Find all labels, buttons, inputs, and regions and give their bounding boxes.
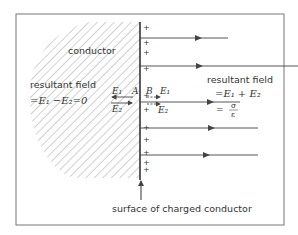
- svg-text:+: +: [143, 48, 150, 57]
- left-resultant-field-equation: =E₁ −E₂=0: [30, 95, 88, 106]
- point-b-label: B: [145, 86, 153, 96]
- vector-e1-right-label: E₁: [159, 86, 170, 96]
- right-resultant-field-equation: =E₁ + E₂: [215, 88, 261, 99]
- svg-text:+: +: [143, 123, 150, 132]
- sigma-numerator: σ: [231, 101, 236, 110]
- vector-e1-left-label: E₁: [111, 86, 122, 96]
- svg-text:+: +: [143, 38, 150, 47]
- svg-text:+: +: [143, 165, 150, 174]
- svg-text:+: +: [143, 23, 150, 32]
- sigma-eq-sign: =: [216, 105, 224, 115]
- left-resultant-field-label: resultant field: [30, 79, 96, 90]
- svg-text:+: +: [143, 135, 150, 144]
- svg-text:+: +: [143, 148, 150, 157]
- point-a-label: A: [131, 86, 139, 96]
- svg-text:+: +: [143, 64, 150, 73]
- surface-caption: surface of charged conductor: [112, 203, 252, 214]
- right-resultant-field-label: resultant field: [207, 74, 273, 85]
- conductor-label: conductor: [68, 45, 116, 56]
- vector-e2-right-label: E₂: [157, 105, 169, 115]
- charged-conductor-field-diagram: + + + + + + + + + + + conductor resultan…: [0, 0, 298, 235]
- svg-text:+: +: [143, 105, 150, 114]
- surface-charges: + + + + + + + + + + +: [143, 23, 150, 174]
- epsilon-denominator: ε: [231, 110, 235, 119]
- vector-e2-left-label: E₂: [111, 104, 123, 114]
